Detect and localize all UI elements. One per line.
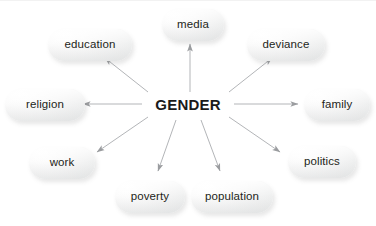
node-population-label: population xyxy=(205,191,259,203)
node-poverty-label: poverty xyxy=(131,191,169,203)
edge-gender-population xyxy=(201,120,220,171)
edge-gender-politics xyxy=(229,117,280,152)
node-education-label: education xyxy=(65,39,116,51)
center-node-gender[interactable]: GENDER xyxy=(142,93,234,115)
node-population[interactable]: population xyxy=(191,181,273,213)
node-religion-label: religion xyxy=(26,99,64,111)
center-node-label: GENDER xyxy=(155,96,220,113)
node-work[interactable]: work xyxy=(29,147,95,179)
edge-gender-work xyxy=(97,117,148,152)
node-family[interactable]: family xyxy=(304,89,370,121)
edge-gender-deviance xyxy=(229,58,272,92)
edge-gender-poverty xyxy=(158,120,176,171)
node-education[interactable]: education xyxy=(48,29,132,61)
node-politics[interactable]: politics xyxy=(288,146,356,178)
node-family-label: family xyxy=(322,99,353,111)
node-poverty[interactable]: poverty xyxy=(115,181,185,213)
node-religion[interactable]: religion xyxy=(5,89,85,121)
diagram-canvas: GENDER media deviance family politics po… xyxy=(0,0,376,226)
node-media[interactable]: media xyxy=(162,9,224,41)
node-work-label: work xyxy=(50,157,75,169)
node-deviance-label: deviance xyxy=(263,39,310,51)
node-media-label: media xyxy=(177,19,209,31)
node-politics-label: politics xyxy=(304,156,340,168)
node-deviance[interactable]: deviance xyxy=(247,29,325,61)
edge-gender-education xyxy=(105,58,148,92)
